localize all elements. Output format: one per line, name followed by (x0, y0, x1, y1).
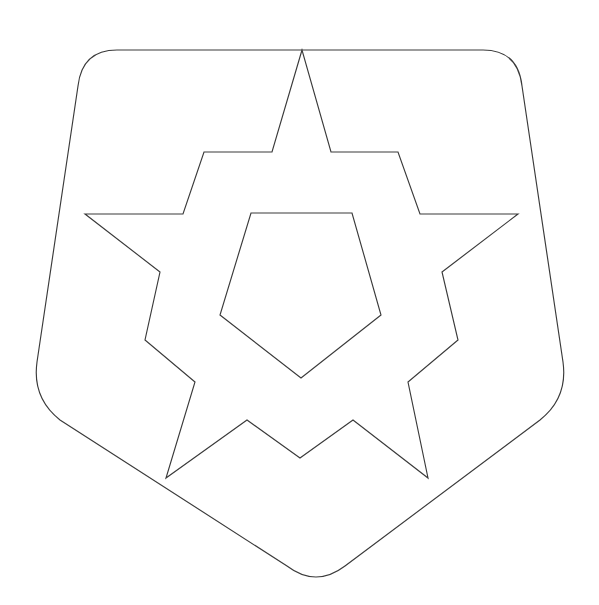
drawing-canvas (0, 0, 599, 605)
pentagon-star-figure (0, 0, 599, 605)
canvas-background (0, 0, 599, 605)
